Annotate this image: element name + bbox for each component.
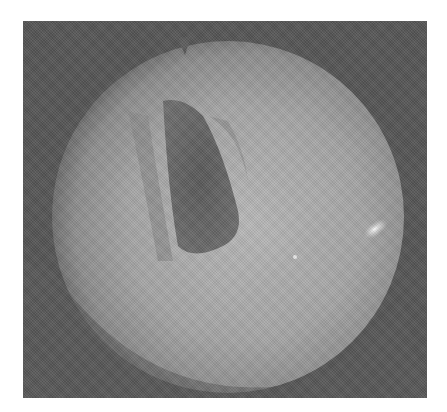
small-highlight (293, 255, 297, 259)
endoscopic-view-graphic (23, 21, 427, 398)
endoscopic-photo (23, 21, 427, 398)
